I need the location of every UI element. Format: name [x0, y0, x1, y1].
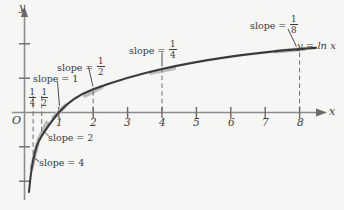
x-tick-label-5: 5 [193, 117, 200, 128]
slope-value: 4 [78, 157, 84, 168]
fraction-one-quarter: 14 [169, 40, 177, 60]
slope-label-one-half: slope = 12 [57, 57, 105, 77]
fraction-one-half: 12 [41, 88, 49, 108]
leader-slope-1 [58, 82, 60, 107]
slope-prefix: slope = [39, 157, 78, 168]
ln-x-slope-figure: y x O 1 2 3 4 5 6 7 8 14 12 slope = 4 sl… [0, 0, 344, 210]
slope-prefix: slope = [250, 20, 289, 31]
slope-label-one-eighth: slope = 18 [250, 15, 298, 35]
slope-label-4: slope = 4 [39, 158, 84, 168]
x-tick-label-4: 4 [159, 117, 166, 128]
x-tick-label-quarter: 14 [28, 88, 37, 108]
slope-label-2: slope = 2 [48, 133, 93, 143]
x-axis-arrowhead [316, 109, 327, 117]
x-tick-label-half: 12 [40, 88, 49, 108]
x-tick-label-7: 7 [262, 117, 269, 128]
fraction-one-eighth: 18 [290, 15, 298, 35]
x-tick-label-3: 3 [124, 117, 131, 128]
slope-prefix: slope = [57, 62, 96, 73]
y-axis-label: y [19, 2, 25, 13]
fraction-one-quarter: 14 [29, 88, 37, 108]
x-tick-label-6: 6 [228, 117, 235, 128]
x-tick-label-2: 2 [90, 117, 97, 128]
slope-label-one-quarter: slope = 14 [129, 40, 177, 60]
x-axis-label: x [329, 106, 335, 117]
x-tick-label-1: 1 [56, 117, 63, 128]
origin-label: O [12, 115, 21, 126]
curve-label: y = ln x [297, 41, 336, 51]
x-tick-label-8: 8 [297, 117, 304, 128]
slope-prefix: slope = [48, 132, 87, 143]
fraction-one-half: 12 [97, 57, 105, 77]
slope-value: 2 [87, 132, 93, 143]
slope-prefix: slope = [129, 45, 168, 56]
